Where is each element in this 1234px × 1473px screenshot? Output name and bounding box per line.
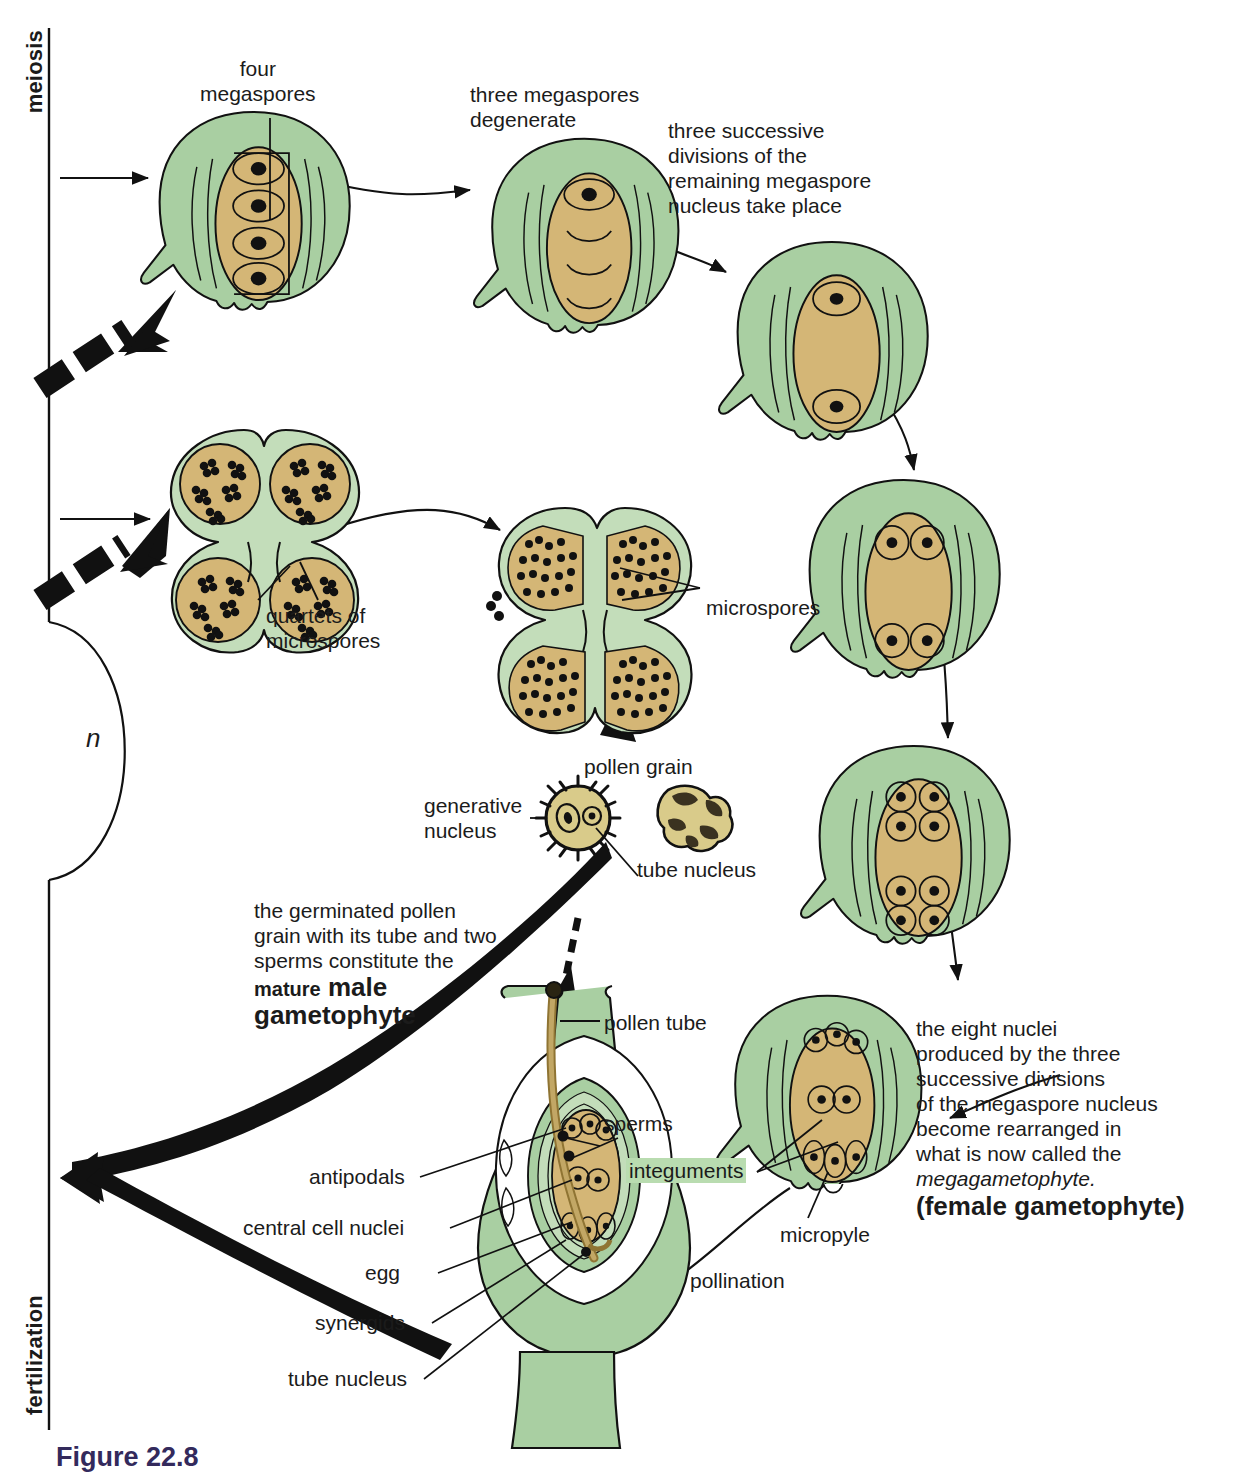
male-callout-male: male	[328, 972, 387, 1002]
ovule-four-megaspores	[141, 112, 350, 310]
pollen-grain-sectioned	[536, 776, 620, 860]
female-callout-line2: produced by the three	[916, 1041, 1185, 1066]
pollen-grain-surface	[658, 786, 733, 851]
label-tube-nucleus: tube nucleus	[637, 857, 756, 882]
female-callout-line4: of the megaspore nucleus	[916, 1091, 1185, 1116]
female-callout-bold: (female gametophyte)	[916, 1192, 1185, 1220]
male-callout-mature: mature	[254, 978, 321, 1000]
label-three-divisions: three successive divisions of the remain…	[668, 118, 871, 218]
ovule-eight-nuclei	[801, 746, 1010, 944]
male-callout-line2: grain with its tube and two	[254, 923, 497, 948]
female-callout-line6: what is now called the	[916, 1141, 1185, 1166]
ovule-two-nuclei	[719, 242, 928, 440]
label-micropyle: micropyle	[780, 1222, 870, 1247]
label-pollination: pollination	[690, 1268, 785, 1293]
label-quartets: quartets of microspores	[266, 603, 380, 653]
thick-dashed-arrow-lower	[40, 508, 170, 600]
label-three-degenerate: three megaspores degenerate	[470, 82, 639, 132]
label-sperms: sperms	[604, 1111, 673, 1136]
anther-microspores	[486, 508, 691, 733]
callout-female-gametophyte: the eight nuclei produced by the three s…	[916, 1016, 1185, 1220]
label-central-cell-nuclei: central cell nuclei	[243, 1215, 404, 1240]
male-callout-line3: sperms constitute the	[254, 948, 497, 973]
label-pollen-tube: pollen tube	[604, 1010, 707, 1035]
fertilization-label: fertilization	[22, 1295, 48, 1415]
male-callout-line1: the germinated pollen	[254, 898, 497, 923]
label-egg: egg	[365, 1260, 400, 1285]
label-integuments: integuments	[626, 1158, 746, 1183]
callout-male-gametophyte: the germinated pollen grain with its tub…	[254, 898, 497, 1029]
label-synergids: synergids	[315, 1310, 405, 1335]
female-callout-line5: become rearranged in	[916, 1116, 1185, 1141]
female-callout-italic: megagametophyte.	[916, 1166, 1185, 1191]
ploidy-label: n	[86, 723, 100, 754]
label-antipodals: antipodals	[309, 1164, 405, 1189]
ovule-megagametophyte	[717, 996, 921, 1193]
female-callout-line3: successive divisions	[916, 1066, 1185, 1091]
ovary-fertilization	[478, 982, 690, 1448]
female-callout-line1: the eight nuclei	[916, 1016, 1185, 1041]
thick-dashed-arrow-upper	[40, 290, 176, 388]
ovule-three-degenerate	[474, 139, 678, 333]
label-four-megaspores: four megaspores	[200, 56, 316, 106]
ovule-four-nuclei	[791, 480, 1000, 678]
figure-caption: Figure 22.8	[56, 1442, 199, 1473]
arrow-quartets-to-microspores	[337, 510, 500, 530]
male-callout-gametophyte: gametophyte	[254, 1001, 497, 1029]
meiosis-label: meiosis	[22, 30, 48, 113]
label-tube-nucleus-2: tube nucleus	[288, 1366, 407, 1391]
label-microspores: microspores	[706, 595, 820, 620]
label-generative-nucleus: generative nucleus	[424, 793, 522, 843]
label-pollen-grain: pollen grain	[584, 754, 693, 779]
